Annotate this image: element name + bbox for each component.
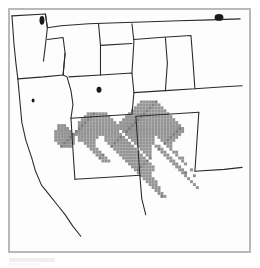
presence-cell	[99, 112, 102, 115]
presence-cell	[155, 109, 158, 112]
presence-cell	[134, 112, 137, 115]
presence-cell	[140, 103, 143, 106]
presence-cell	[104, 121, 107, 124]
presence-cell	[140, 121, 143, 124]
presence-cell	[104, 139, 107, 142]
presence-cell	[90, 118, 93, 121]
presence-cell	[172, 151, 175, 154]
presence-cell	[140, 136, 143, 139]
presence-cell	[137, 124, 140, 127]
presence-cell	[96, 151, 99, 154]
presence-cell	[152, 130, 155, 133]
presence-cell	[152, 183, 155, 186]
presence-cell	[143, 100, 146, 103]
presence-cell	[158, 115, 161, 118]
presence-cell	[60, 124, 63, 127]
presence-cell	[146, 112, 149, 115]
presence-cell	[81, 136, 84, 139]
presence-cell	[104, 124, 107, 127]
presence-cell	[155, 180, 158, 183]
presence-cell	[134, 157, 137, 160]
presence-cell	[143, 168, 146, 171]
presence-cell	[99, 151, 102, 154]
presence-cell	[60, 133, 63, 136]
presence-cell	[104, 112, 107, 115]
presence-cell	[140, 157, 143, 160]
presence-cell	[158, 106, 161, 109]
presence-cell	[96, 148, 99, 151]
presence-cell	[152, 142, 155, 145]
presence-cell	[93, 130, 96, 133]
presence-cell	[143, 106, 146, 109]
presence-cell	[169, 127, 172, 130]
presence-cell	[69, 145, 72, 148]
presence-cell	[143, 136, 146, 139]
presence-cell	[60, 130, 63, 133]
presence-cell	[116, 127, 119, 130]
presence-cell	[90, 127, 93, 130]
presence-cell	[63, 145, 66, 148]
presence-cell	[149, 171, 152, 174]
presence-cell	[134, 151, 137, 154]
presence-cell	[110, 145, 113, 148]
presence-cell	[143, 174, 146, 177]
presence-cell	[113, 133, 116, 136]
presence-cell	[166, 145, 169, 148]
presence-cell	[152, 136, 155, 139]
map-frame	[8, 8, 251, 253]
presence-cell	[57, 139, 60, 142]
presence-cell	[158, 118, 161, 121]
presence-cell	[146, 165, 149, 168]
presence-cell	[93, 145, 96, 148]
presence-cell	[143, 151, 146, 154]
presence-cell	[128, 162, 131, 165]
presence-cell	[119, 124, 122, 127]
presence-cell	[155, 186, 158, 189]
presence-cell	[178, 168, 181, 171]
presence-cell	[178, 133, 181, 136]
presence-cell	[128, 160, 131, 163]
presence-cell	[149, 180, 152, 183]
presence-cell	[122, 151, 125, 154]
presence-cell	[137, 106, 140, 109]
presence-cell	[81, 118, 84, 121]
presence-cell	[149, 100, 152, 103]
presence-cell	[63, 142, 66, 145]
presence-cell	[113, 130, 116, 133]
presence-cell	[125, 127, 128, 130]
presence-cell	[54, 133, 57, 136]
presence-cell	[158, 133, 161, 136]
presence-cell	[57, 142, 60, 145]
presence-cell	[99, 127, 102, 130]
presence-cell	[131, 154, 134, 157]
presence-cell	[143, 148, 146, 151]
presence-cell	[116, 145, 119, 148]
presence-cell	[140, 139, 143, 142]
presence-cell	[160, 106, 163, 109]
presence-cell	[87, 112, 90, 115]
presence-cell	[149, 177, 152, 180]
presence-cell	[149, 183, 152, 186]
presence-cell	[131, 136, 134, 139]
presence-cell	[87, 142, 90, 145]
presence-cell	[149, 103, 152, 106]
presence-cell	[134, 106, 137, 109]
presence-cell	[175, 162, 178, 165]
presence-cell	[96, 130, 99, 133]
presence-cell	[96, 154, 99, 157]
presence-cell	[172, 130, 175, 133]
presence-cell	[172, 121, 175, 124]
presence-cell	[152, 168, 155, 171]
presence-cell	[169, 115, 172, 118]
presence-cell	[110, 130, 113, 133]
presence-cell	[158, 130, 161, 133]
presence-cell	[128, 130, 131, 133]
presence-cell	[107, 118, 110, 121]
presence-cell	[172, 133, 175, 136]
presence-cell	[152, 165, 155, 168]
presence-cell	[93, 121, 96, 124]
presence-cell	[160, 148, 163, 151]
presence-cell	[107, 121, 110, 124]
presence-cell	[172, 162, 175, 165]
presence-cell	[143, 130, 146, 133]
